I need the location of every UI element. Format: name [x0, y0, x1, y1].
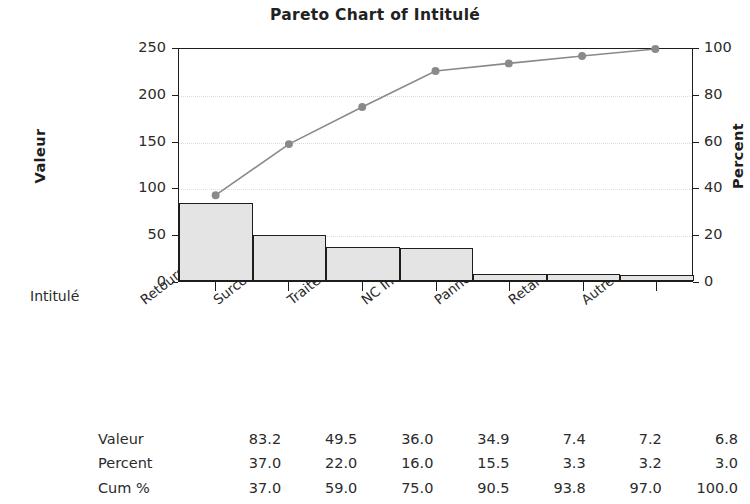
table-row: Valeur83.249.536.034.97.47.26.8: [98, 428, 738, 452]
cumulative-line-marker: [432, 67, 440, 75]
right-axis-tick: [693, 95, 699, 96]
table-cell: 36.0: [357, 428, 433, 452]
left-axis-tick-label: 150: [106, 133, 166, 149]
cumulative-line-marker: [505, 59, 513, 67]
right-axis-tick: [693, 142, 699, 143]
cumulative-line-marker: [358, 103, 366, 111]
table-cell: 6.8: [662, 428, 738, 452]
table-cell: 15.5: [433, 452, 509, 476]
left-axis-tick-label: 100: [106, 179, 166, 195]
table-cell: 3.0: [662, 452, 738, 476]
table-row-label: Percent: [98, 452, 205, 476]
table-cell: 34.9: [433, 428, 509, 452]
right-axis-tick-label: 80: [704, 86, 750, 102]
data-table: Valeur83.249.536.034.97.47.26.8Percent37…: [98, 428, 738, 501]
table-row: Percent37.022.016.015.53.33.23.0: [98, 452, 738, 476]
table-row: Cum %37.059.075.090.593.897.0100.0: [98, 477, 738, 501]
right-axis-tick: [693, 235, 699, 236]
table-cell: 93.8: [510, 477, 586, 501]
table-cell: 37.0: [205, 452, 281, 476]
table-cell: 7.2: [586, 428, 662, 452]
right-axis-tick-label: 60: [704, 133, 750, 149]
x-axis-tick: [656, 282, 657, 291]
table-cell: 16.0: [357, 452, 433, 476]
table-cell: 97.0: [586, 477, 662, 501]
cumulative-line-marker: [285, 140, 293, 148]
right-axis-tick: [693, 282, 699, 283]
right-axis-tick-label: 20: [704, 226, 750, 242]
cumulative-line-marker: [578, 52, 586, 60]
table-cell: 37.0: [205, 477, 281, 501]
cumulative-line-marker: [212, 191, 220, 199]
right-axis-tick: [693, 188, 699, 189]
y-axis-label-left: Valeur: [32, 96, 48, 216]
table-cell: 90.5: [433, 477, 509, 501]
table-cell: 3.3: [510, 452, 586, 476]
plot-area: [178, 48, 693, 282]
table-cell: 83.2: [205, 428, 281, 452]
cumulative-line-marker: [651, 45, 659, 53]
table-cell: 7.4: [510, 428, 586, 452]
left-axis-tick-label: 200: [106, 86, 166, 102]
table-cell: 59.0: [281, 477, 357, 501]
right-axis-tick-label: 40: [704, 179, 750, 195]
right-axis-tick: [693, 48, 699, 49]
right-axis-tick-label: 100: [704, 39, 750, 55]
table-cell: 75.0: [357, 477, 433, 501]
right-axis-tick-label: 0: [704, 273, 750, 289]
table-cell: 22.0: [281, 452, 357, 476]
table-cell: 49.5: [281, 428, 357, 452]
table-cell: 100.0: [662, 477, 738, 501]
left-axis-tick-label: 250: [106, 39, 166, 55]
y-axis-label-right: Percent: [730, 96, 746, 216]
left-axis-tick-label: 50: [106, 226, 166, 242]
chart-title: Pareto Chart of Intitulé: [0, 6, 750, 24]
cumulative-percent-line: [179, 49, 692, 281]
table-cell: 3.2: [586, 452, 662, 476]
table-row-label: Cum %: [98, 477, 205, 501]
x-axis-label: Intitulé: [30, 288, 79, 304]
table-row-label: Valeur: [98, 428, 205, 452]
